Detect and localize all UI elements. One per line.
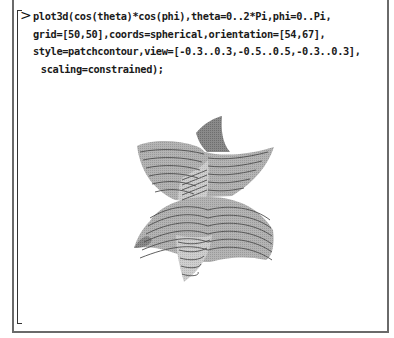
surface-patches (134, 116, 274, 282)
surface-patch (196, 116, 230, 152)
plot3d-output[interactable] (0, 0, 394, 338)
surface-patch (205, 147, 274, 197)
